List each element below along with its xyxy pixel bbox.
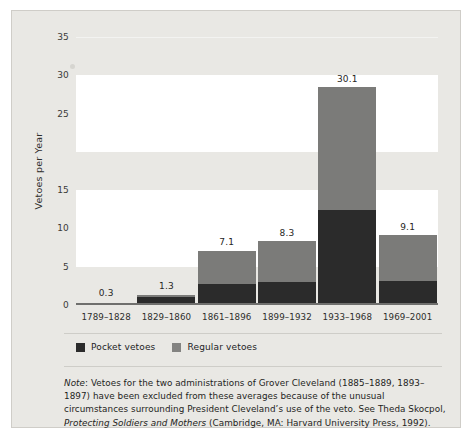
bar-value-label: 7.1 bbox=[219, 237, 234, 247]
stacked-bar[interactable] bbox=[318, 87, 376, 305]
y-axis-title: Vetoes per Year bbox=[33, 133, 44, 210]
note-prefix: Note bbox=[64, 378, 85, 388]
bar-slot-1899-1932: 8.3 1899–1932 bbox=[257, 37, 317, 305]
y-tick-25: 25 bbox=[57, 109, 69, 119]
x-tick-label: 1861–1896 bbox=[202, 312, 251, 322]
stacked-bar[interactable] bbox=[198, 251, 256, 305]
chart-figure: Vetoes per Year 35 30 25 15 10 5 0 bbox=[0, 0, 473, 438]
y-tick-30: 30 bbox=[57, 70, 69, 80]
stacked-bar[interactable] bbox=[258, 241, 316, 305]
bar-slot-1861-1896: 7.1 1861–1896 bbox=[197, 37, 257, 305]
legend-item-regular-vetoes[interactable]: Regular vetoes bbox=[172, 342, 257, 352]
segment-pocket-vetoes bbox=[198, 284, 256, 306]
note-cited-title: Protecting Soldiers and Mothers bbox=[64, 418, 206, 428]
segment-pocket-vetoes bbox=[379, 281, 437, 305]
plot-wrapper: Vetoes per Year 35 30 25 15 10 5 0 bbox=[24, 19, 450, 324]
segment-regular-vetoes bbox=[379, 235, 437, 281]
y-tick-0: 0 bbox=[63, 300, 69, 310]
segment-regular-vetoes bbox=[198, 251, 256, 284]
x-axis-baseline bbox=[76, 303, 438, 305]
bar-slot-1789-1828: 0.3 1789–1828 bbox=[76, 37, 136, 305]
x-tick-label: 1789–1828 bbox=[81, 312, 130, 322]
note-text-part-1: : Vetoes for the two administrations of … bbox=[64, 378, 446, 414]
bar-slot-1933-1968: 30.1 1933–1968 bbox=[317, 37, 377, 305]
segment-pocket-vetoes bbox=[258, 282, 316, 305]
figure-frame: Vetoes per Year 35 30 25 15 10 5 0 bbox=[11, 10, 461, 428]
legend-swatch-icon bbox=[76, 343, 85, 352]
segment-pocket-vetoes bbox=[318, 210, 376, 305]
segment-regular-vetoes bbox=[258, 241, 316, 282]
bar-slot-1829-1860: 1.3 1829–1860 bbox=[136, 37, 196, 305]
legend-label: Pocket vetoes bbox=[91, 342, 155, 352]
stacked-bar[interactable] bbox=[379, 235, 437, 305]
segment-regular-vetoes bbox=[318, 87, 376, 210]
bar-value-label: 0.3 bbox=[99, 288, 114, 298]
x-tick-label: 1899–1932 bbox=[262, 312, 311, 322]
bar-group: 0.3 1789–1828 1.3 1829–1860 bbox=[76, 37, 438, 305]
x-tick-label: 1969–2001 bbox=[383, 312, 432, 322]
note-divider bbox=[64, 366, 442, 367]
bar-value-label: 30.1 bbox=[337, 74, 358, 84]
chart-note: Note: Vetoes for the two administrations… bbox=[64, 377, 449, 430]
x-tick-label: 1829–1860 bbox=[142, 312, 191, 322]
y-tick-5: 5 bbox=[63, 262, 69, 272]
y-tick-20: 15 bbox=[57, 185, 69, 195]
legend-swatch-icon bbox=[172, 343, 181, 352]
chart-legend: Pocket vetoes Regular vetoes bbox=[76, 342, 257, 352]
note-text-part-2: (Cambridge, MA: Harvard University Press… bbox=[206, 418, 430, 428]
bar-value-label: 1.3 bbox=[159, 281, 174, 291]
legend-item-pocket-vetoes[interactable]: Pocket vetoes bbox=[76, 342, 155, 352]
bar-slot-1969-2001: 9.1 1969–2001 bbox=[378, 37, 438, 305]
legend-label: Regular vetoes bbox=[187, 342, 257, 352]
legend-divider bbox=[64, 333, 442, 334]
print-speck bbox=[70, 64, 75, 69]
y-tick-35: 35 bbox=[57, 32, 69, 42]
bar-value-label: 9.1 bbox=[400, 222, 415, 232]
y-tick-10: 10 bbox=[57, 223, 69, 233]
x-tick-label: 1933–1968 bbox=[323, 312, 372, 322]
bar-value-label: 8.3 bbox=[280, 228, 295, 238]
plot-area: 35 30 25 15 10 5 0 0.3 1789–1828 bbox=[76, 37, 438, 305]
